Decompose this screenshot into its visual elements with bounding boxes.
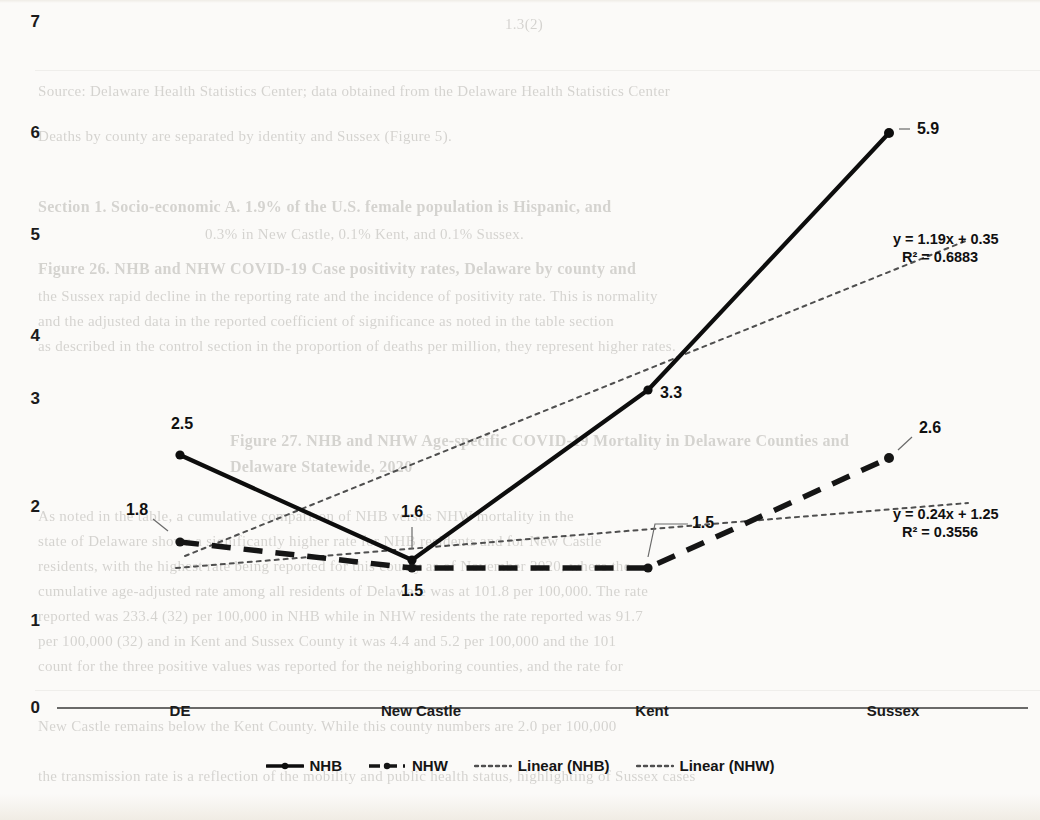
legend-swatch-linear-nhw-icon: [636, 759, 674, 773]
legend-item-nhw[interactable]: NHW: [368, 757, 448, 774]
equation-linear-nhw-r2: R² = 0.3556: [893, 523, 999, 541]
leader-line-nhw-sussex: [898, 437, 912, 450]
marker-nhw-new-castle: [407, 563, 416, 572]
marker-nhw-sussex: [884, 453, 894, 463]
series-line-nhw: [180, 458, 889, 568]
legend-item-linear-nhb[interactable]: Linear (NHB): [474, 757, 610, 774]
legend-label-linear-nhw: Linear (NHW): [680, 757, 775, 774]
legend-item-linear-nhw[interactable]: Linear (NHW): [636, 757, 775, 774]
data-label-nhb-de: 2.5: [171, 415, 193, 433]
data-label-nhb-sussex: 5.9: [917, 120, 939, 138]
marker-nhb-sussex: [884, 128, 894, 138]
marker-nhw-kent: [643, 563, 652, 572]
equation-linear-nhb-formula: y = 1.19x + 0.35: [893, 231, 999, 247]
equation-linear-nhb-r2: R² = 0.6883: [893, 248, 999, 266]
data-label-nhw-new-castle: 1.5: [401, 582, 423, 600]
legend-label-nhw: NHW: [412, 757, 448, 774]
data-label-nhw-de: 1.8: [126, 501, 148, 519]
series-line-nhb: [180, 133, 889, 560]
data-label-nhb-new-castle: 1.6: [401, 503, 423, 521]
equation-linear-nhw-formula: y = 0.24x + 1.25: [893, 506, 999, 522]
x-axis-label-new-castle: New Castle: [381, 702, 461, 719]
x-axis-label-sussex: Sussex: [867, 702, 920, 719]
data-label-nhb-kent: 3.3: [660, 384, 682, 402]
legend-label-linear-nhb: Linear (NHB): [518, 757, 610, 774]
marker-nhb-new-castle: [407, 555, 416, 564]
equation-linear-nhw: y = 0.24x + 1.25 R² = 0.3556: [893, 505, 999, 541]
data-label-nhw-sussex: 2.6: [919, 419, 941, 437]
marker-nhb-kent: [643, 385, 652, 394]
legend-swatch-linear-nhb-icon: [474, 759, 512, 773]
x-axis-label-kent: Kent: [635, 702, 668, 719]
legend-swatch-nhw-icon: [368, 759, 406, 773]
legend-swatch-nhb-icon: [266, 759, 304, 773]
line-chart: 0 1 2 3 4 5 6 7 2.5 1.6 3.3: [0, 0, 1040, 820]
marker-nhb-de: [175, 450, 184, 459]
legend-label-nhb: NHB: [310, 757, 343, 774]
chart-legend: NHB NHW Linear (NHB) Linear (NHW): [0, 757, 1040, 774]
data-label-nhw-kent: 1.5: [692, 514, 714, 532]
x-axis-label-de: DE: [170, 702, 191, 719]
plot-area: [0, 0, 1040, 820]
equation-linear-nhb: y = 1.19x + 0.35 R² = 0.6883: [893, 230, 999, 266]
marker-nhw-de: [175, 537, 184, 546]
legend-item-nhb[interactable]: NHB: [266, 757, 343, 774]
leader-line-nhw-de: [153, 519, 168, 531]
leader-line-nhw-kent: [648, 524, 688, 557]
